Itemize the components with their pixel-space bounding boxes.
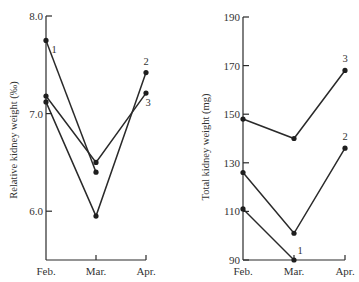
data-point bbox=[143, 70, 148, 75]
figure: 6.07.08.0Feb.Mar.Apr.Relative kidney wei… bbox=[0, 0, 359, 282]
data-point bbox=[143, 91, 148, 96]
series-line bbox=[243, 70, 345, 138]
series-3: 3 bbox=[240, 53, 347, 141]
series-number-label: 3 bbox=[145, 97, 150, 108]
x-tick-label: Apr. bbox=[136, 265, 156, 277]
x-tick-label: Feb. bbox=[233, 265, 253, 277]
relative-kidney-weight-chart: 6.07.08.0Feb.Mar.Apr.Relative kidney wei… bbox=[8, 10, 156, 277]
series-2: 2 bbox=[240, 131, 347, 236]
y-axis-title: Total kidney weight (mg) bbox=[200, 93, 212, 200]
data-point bbox=[93, 170, 98, 175]
y-tick-label: 110 bbox=[224, 205, 241, 217]
total-kidney-weight-chart: 90110130150170190Feb.Mar.Apr.Total kidne… bbox=[200, 11, 355, 277]
series-line bbox=[46, 93, 146, 162]
series-2: 2 bbox=[43, 56, 148, 219]
y-tick-label: 190 bbox=[224, 11, 241, 23]
data-point bbox=[291, 136, 296, 141]
data-point bbox=[342, 68, 347, 73]
y-tick-label: 150 bbox=[224, 108, 241, 120]
x-tick-label: Mar. bbox=[284, 265, 305, 277]
data-point bbox=[240, 170, 245, 175]
series-line bbox=[46, 73, 146, 216]
data-point bbox=[93, 213, 98, 218]
y-axis-title: Relative kidney weight (‰) bbox=[8, 81, 20, 199]
series-3: 3 bbox=[43, 91, 150, 165]
y-tick-label: 6.0 bbox=[29, 205, 43, 217]
data-point bbox=[93, 160, 98, 165]
series-number-label: 1 bbox=[51, 44, 56, 55]
x-tick-label: Apr. bbox=[335, 265, 355, 277]
x-tick-label: Mar. bbox=[86, 265, 107, 277]
data-point bbox=[291, 257, 296, 262]
series-line bbox=[243, 209, 294, 260]
y-tick-label: 170 bbox=[224, 60, 241, 72]
y-tick-label: 8.0 bbox=[29, 10, 43, 22]
y-tick-label: 7.0 bbox=[29, 108, 43, 120]
x-tick-label: Feb. bbox=[36, 265, 56, 277]
series-number-label: 2 bbox=[342, 131, 347, 142]
series-number-label: 3 bbox=[342, 53, 347, 64]
data-point bbox=[342, 146, 347, 151]
chart-canvas: 6.07.08.0Feb.Mar.Apr.Relative kidney wei… bbox=[0, 0, 359, 282]
data-point bbox=[291, 231, 296, 236]
series-number-label: 1 bbox=[297, 245, 302, 256]
y-tick-label: 130 bbox=[224, 157, 241, 169]
data-point bbox=[43, 99, 48, 104]
series-number-label: 2 bbox=[143, 56, 148, 67]
data-point bbox=[240, 116, 245, 121]
data-point bbox=[43, 93, 48, 98]
data-point bbox=[240, 206, 245, 211]
data-point bbox=[43, 38, 48, 43]
series-line bbox=[243, 148, 345, 233]
